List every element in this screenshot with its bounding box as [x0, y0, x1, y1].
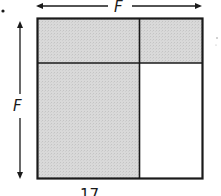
left-dimension-label: F [13, 97, 22, 115]
region-bottom-left [38, 63, 139, 178]
arrowhead-down-icon [17, 172, 23, 179]
stray-mark-2 [215, 44, 216, 45]
bullet-dot [1, 9, 4, 12]
arrowhead-right-icon [195, 3, 202, 9]
top-dimension-label: F [114, 0, 123, 16]
bottom-label: 17 [80, 186, 99, 196]
region-bottom-right [139, 63, 202, 178]
region-top-left [38, 19, 139, 63]
square-area-diagram: F F 17 [0, 0, 221, 196]
arrowhead-up-icon [17, 21, 23, 28]
stray-mark [216, 37, 218, 39]
arrowhead-left-icon [36, 3, 43, 9]
region-top-right [139, 19, 202, 63]
